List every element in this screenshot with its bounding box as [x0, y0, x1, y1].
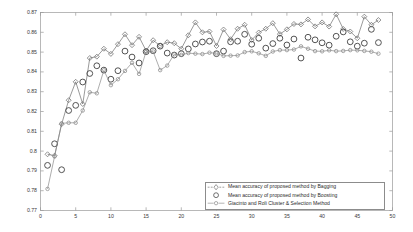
x-tick-label: 20	[171, 214, 191, 219]
x-tick-label: 5	[66, 214, 86, 219]
chart-legend: Mean accuracy of proposed method by Bagg…	[205, 182, 385, 210]
y-tick-label: 0.83	[8, 89, 37, 94]
legend-label-boosting: Mean accuracy of proposed method by Boos…	[228, 193, 337, 198]
legend-marker-small-circle-icon	[206, 199, 228, 207]
legend-entry-bagging: Mean accuracy of proposed method by Bagg…	[206, 183, 384, 191]
data-point	[361, 40, 367, 46]
data-point	[115, 68, 121, 74]
figure: 0.770.780.790.80.810.820.830.840.850.860…	[0, 0, 413, 232]
x-tick-label: 40	[312, 214, 332, 219]
data-point	[129, 54, 135, 60]
legend-label-bagging: Mean accuracy of proposed method by Bagg…	[228, 184, 336, 189]
data-point	[242, 31, 248, 37]
data-point	[192, 41, 198, 47]
data-point	[305, 34, 311, 40]
data-point	[312, 37, 318, 43]
x-tick-label: 45	[347, 214, 367, 219]
data-point	[66, 108, 72, 114]
y-tick-label: 0.81	[8, 129, 37, 134]
y-tick-label: 0.77	[8, 208, 37, 213]
x-tick-label: 25	[207, 214, 227, 219]
data-point	[333, 33, 339, 39]
legend-marker-circle-icon	[206, 191, 228, 199]
x-tick-label: 0	[31, 214, 51, 219]
y-tick-label: 0.79	[8, 168, 37, 173]
y-tick-label: 0.78	[8, 188, 37, 193]
legend-entry-giacinto: Giacinto and Roli Cluster & Selection Me…	[206, 199, 384, 207]
data-point	[319, 40, 325, 46]
series-bagging	[45, 12, 381, 158]
data-point	[200, 39, 206, 45]
data-point	[185, 46, 191, 52]
y-tick-label: 0.86	[8, 30, 37, 35]
y-tick-label: 0.87	[8, 10, 37, 15]
data-point	[291, 36, 297, 42]
data-point	[354, 43, 360, 49]
data-point	[235, 38, 241, 44]
y-tick-label: 0.8	[8, 149, 37, 154]
data-point	[136, 60, 142, 66]
data-point	[298, 55, 304, 61]
data-point	[164, 50, 170, 56]
data-point	[221, 48, 227, 54]
y-tick-label: 0.84	[8, 69, 37, 74]
y-tick-label: 0.82	[8, 109, 37, 114]
data-point	[376, 40, 382, 46]
data-point	[150, 48, 156, 54]
data-point	[326, 42, 332, 48]
data-point	[207, 38, 213, 44]
data-point	[270, 41, 276, 47]
x-tick-label: 15	[136, 214, 156, 219]
series-boosting	[45, 26, 382, 172]
x-tick-label: 35	[277, 214, 297, 219]
data-point	[94, 63, 100, 69]
data-point	[256, 35, 262, 41]
y-tick-label: 0.85	[8, 50, 37, 55]
data-point	[80, 79, 86, 85]
data-point	[122, 48, 128, 54]
data-point	[347, 39, 353, 45]
data-point	[73, 102, 79, 108]
data-point	[45, 162, 51, 168]
x-tick-label: 50	[383, 214, 403, 219]
data-point	[284, 42, 290, 48]
x-tick-label: 30	[242, 214, 262, 219]
x-tick-label: 10	[101, 214, 121, 219]
series-giacinto	[46, 45, 380, 191]
data-point	[263, 45, 269, 51]
legend-entry-boosting: Mean accuracy of proposed method by Boos…	[206, 191, 384, 199]
legend-marker-diamond-icon	[206, 183, 228, 191]
data-point	[59, 167, 65, 173]
legend-label-giacinto: Giacinto and Roli Cluster & Selection Me…	[228, 201, 330, 206]
